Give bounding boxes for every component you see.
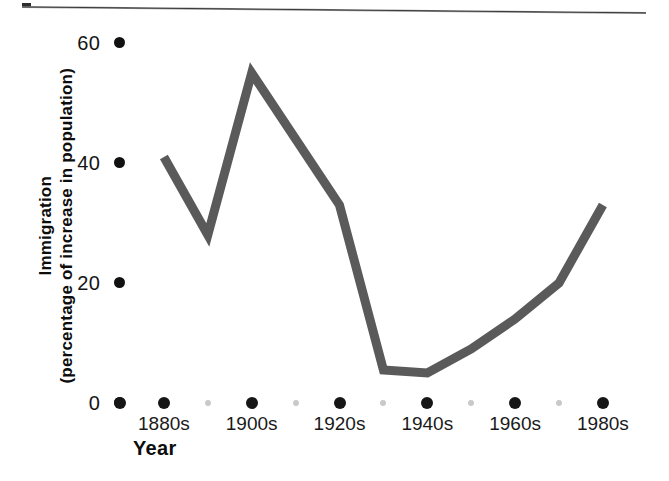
x-tick-dot-1870s	[114, 397, 126, 409]
x-tick-dot-1910s	[293, 400, 299, 406]
x-tick-label-1900s: 1900s	[226, 414, 278, 433]
x-tick-label-1960s: 1960s	[489, 414, 541, 433]
y-tick-dot-60	[114, 37, 125, 48]
y-axis-title: Immigration (percentage of increase in p…	[36, 31, 77, 421]
x-tick-dot-1970s	[556, 400, 562, 406]
x-tick-dot-1980s	[597, 397, 609, 409]
x-tick-dot-1960s	[509, 397, 521, 409]
x-tick-label-1980s: 1980s	[577, 414, 629, 433]
x-tick-dot-1900s	[246, 397, 258, 409]
x-tick-dot-1920s	[334, 397, 346, 409]
line-chart-svg	[0, 0, 669, 481]
y-tick-dot-40	[114, 157, 125, 168]
y-axis-title-line2: (percentage of increase in population)	[57, 31, 78, 421]
chart-page: 60 40 20 0 1880s1900s1920s1940s1960s1980…	[0, 0, 669, 481]
plot-area	[0, 0, 669, 481]
x-tick-dot-1890s	[205, 400, 211, 406]
immigration-line-series	[164, 73, 603, 373]
x-axis-title: Year	[133, 437, 176, 460]
y-axis-title-line1: Immigration	[36, 31, 57, 421]
x-tick-label-1940s: 1940s	[401, 414, 453, 433]
x-tick-dot-1880s	[158, 397, 170, 409]
x-tick-label-1920s: 1920s	[314, 414, 366, 433]
y-tick-dot-20	[114, 277, 125, 288]
x-tick-label-1880s: 1880s	[138, 414, 190, 433]
